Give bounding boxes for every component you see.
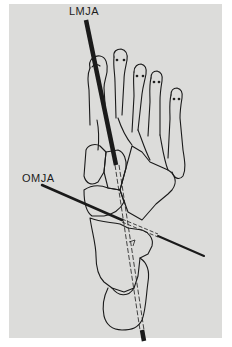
metatarsal-line — [160, 135, 168, 170]
omja-axis — [42, 185, 204, 256]
metatarsal-line — [118, 118, 132, 145]
fourth-toe-bone — [148, 71, 162, 136]
cuboid-bone — [120, 146, 175, 220]
fifth-toe-bone — [168, 88, 185, 179]
second-toe-bone — [114, 49, 128, 118]
omja-label: OMJA — [22, 173, 55, 184]
talus-bone — [90, 218, 152, 292]
third-toe-bone — [132, 64, 146, 132]
intersection-marker — [129, 240, 135, 246]
medial-cuneiform — [84, 145, 106, 184]
lmja-axis — [86, 20, 144, 341]
lmja-label: LMJA — [69, 6, 99, 17]
